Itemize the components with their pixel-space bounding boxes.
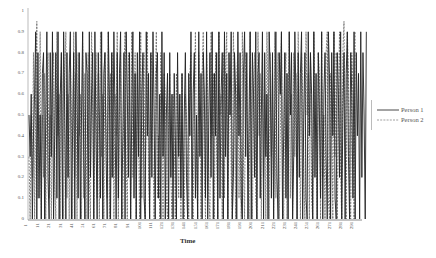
x-tick-label: 251	[305, 222, 310, 230]
x-tick-label: 131	[170, 222, 175, 230]
dashed-line-icon	[377, 117, 399, 123]
legend-item-person-1: Person 1	[371, 106, 424, 113]
y-tick-label: 0.3	[0, 154, 24, 159]
legend-item-person-2: Person 2	[371, 116, 424, 123]
y-tick-label: 0.6	[0, 91, 24, 96]
x-tick-label: 111	[148, 222, 153, 229]
legend-label: Person 2	[401, 116, 424, 123]
x-tick-label: 181	[226, 222, 231, 230]
x-tick-label: 221	[271, 222, 276, 230]
x-tick-label: 201	[249, 222, 254, 230]
x-tick-label: 101	[137, 222, 142, 230]
x-tick-label: 191	[237, 222, 242, 230]
y-tick-label: 0.5	[0, 112, 24, 117]
x-tick-label: 81	[113, 223, 118, 228]
y-tick-label: 0.7	[0, 70, 24, 75]
y-tick-label: 0.1	[0, 195, 24, 200]
legend-divider	[371, 100, 372, 130]
y-tick-label: 1	[0, 8, 24, 13]
y-tick-label: 0.9	[0, 29, 24, 34]
x-tick-label: 11	[35, 223, 40, 228]
x-tick-label: 231	[282, 222, 287, 230]
y-tick-label: 0	[0, 216, 24, 221]
x-tick-label: 31	[58, 223, 63, 228]
x-tick-label: 291	[349, 222, 354, 230]
line-chart: 10.90.80.70.60.50.40.30.20.10 1112131415…	[0, 0, 436, 258]
solid-line-icon	[377, 107, 399, 113]
x-tick-label: 151	[193, 222, 198, 230]
x-tick-label: 161	[204, 222, 209, 230]
x-tick-label: 241	[293, 222, 298, 230]
x-tick-label: 141	[182, 222, 187, 230]
series-person-1-line	[29, 32, 366, 219]
x-tick-label: 261	[316, 222, 321, 230]
x-tick-label: 71	[102, 223, 107, 228]
x-tick-label: 211	[260, 222, 265, 229]
x-tick-label: 1	[23, 224, 28, 227]
legend: Person 1 Person 2	[371, 100, 435, 130]
x-tick-label: 41	[69, 223, 74, 228]
y-tick-label: 0.4	[0, 133, 24, 138]
y-tick-label: 0.8	[0, 50, 24, 55]
x-tick-label: 21	[46, 223, 51, 228]
x-tick-label: 91	[125, 223, 130, 228]
x-tick-label: 281	[338, 222, 343, 230]
x-tick-label: 271	[327, 222, 332, 230]
x-tick-label: 61	[91, 223, 96, 228]
x-axis-label: Time	[180, 237, 195, 245]
legend-label: Person 1	[401, 106, 424, 113]
x-tick-label: 121	[159, 222, 164, 230]
x-tick-label: 171	[215, 222, 220, 230]
y-tick-label: 0.2	[0, 174, 24, 179]
x-tick-label: 51	[80, 223, 85, 228]
